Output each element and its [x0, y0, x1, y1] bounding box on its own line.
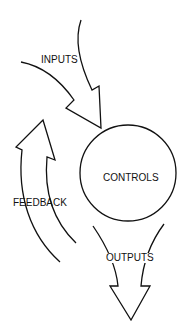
outputs-arrow [93, 224, 164, 320]
inputs-label: INPUTS [41, 55, 78, 65]
control-loop-diagram [0, 0, 186, 335]
inputs-arrow [21, 20, 101, 128]
controls-label: CONTROLS [103, 173, 159, 183]
feedback-arrow [16, 120, 76, 262]
outputs-label: OUTPUTS [106, 253, 154, 263]
feedback-label: FEEDBACK [13, 198, 67, 208]
